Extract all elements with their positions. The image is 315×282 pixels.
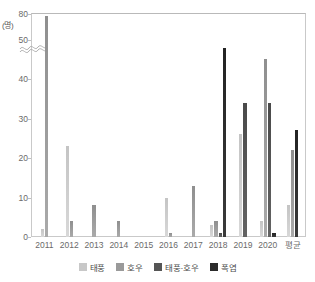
x-axis-tick-2015: 2015 [131,240,156,250]
legend-item-3[interactable]: 폭염 [210,261,237,273]
bar-평균-series-0 [287,205,290,237]
bar-group-2013 [82,14,107,237]
y-axis-tickmark [28,40,31,41]
x-axis-tick-2018: 2018 [206,240,231,250]
bar-group-2015 [131,14,156,237]
bar-2016-series-1 [169,233,172,237]
bar-2020-series-3 [272,233,275,237]
legend-item-1[interactable]: 호우 [116,261,143,273]
bar-chart: (명) 0102030405080 2011201220132014201520… [0,0,315,282]
bar-2018-series-1 [214,221,217,237]
x-axis-tick-2012: 2012 [57,240,82,250]
x-axis-tick-labels: 2011201220132014201520162017201820192020… [32,240,305,254]
y-axis-tick-40: 40 [2,75,28,83]
bar-2019-series-2 [243,103,246,237]
legend-label: 태풍·호우 [165,261,199,273]
legend-label: 호우 [127,261,143,273]
legend-item-0[interactable]: 태풍 [79,261,106,273]
x-axis-tick-평균: 평균 [280,240,305,250]
x-axis-tick-2019: 2019 [231,240,256,250]
bar-2014-series-1 [117,221,120,237]
legend-swatch-icon [210,263,218,271]
bar-평균-series-1 [291,150,294,237]
x-axis-tick-2014: 2014 [106,240,131,250]
chart-legend: 태풍호우태풍·호우폭염 [0,261,315,273]
y-axis-tickmark [28,14,31,15]
bar-group-2018 [206,14,231,237]
legend-item-2[interactable]: 태풍·호우 [154,261,199,273]
bar-group-2019 [231,14,256,237]
legend-label: 폭염 [221,261,237,273]
bar-2020-series-2 [268,103,271,237]
bar-group-2016 [156,14,181,237]
y-axis-tick-10: 10 [2,194,28,202]
x-axis-tick-2011: 2011 [32,240,57,250]
x-axis-tick-2016: 2016 [156,240,181,250]
y-axis-tick-30: 30 [2,115,28,123]
y-axis-tickmark [28,119,31,120]
y-axis-tick-20: 20 [2,154,28,162]
y-axis-tick-0: 0 [2,233,28,241]
bar-group-2020 [255,14,280,237]
bar-2011-series-1 [45,16,48,237]
legend-swatch-icon [154,263,162,271]
x-axis-tick-2020: 2020 [255,240,280,250]
bar-2018-series-2 [219,233,222,237]
bar-2011-series-0 [41,229,44,237]
y-axis-tickmark [28,237,31,238]
bar-2012-series-1 [70,221,73,237]
x-axis-tick-2017: 2017 [181,240,206,250]
bar-평균-series-3 [295,130,298,237]
bar-group-2017 [181,14,206,237]
bar-2013-series-1 [92,205,95,237]
y-axis-tick-80: 80 [2,10,28,18]
bar-group-2011 [32,14,57,237]
bars-layer [32,14,305,237]
y-axis-tickmark [28,158,31,159]
legend-swatch-icon [116,263,124,271]
x-axis-tick-2013: 2013 [82,240,107,250]
bar-2020-series-0 [260,221,263,237]
legend-swatch-icon [79,263,87,271]
bar-2012-series-0 [66,146,69,237]
bar-group-평균 [280,14,305,237]
bar-group-2012 [57,14,82,237]
bar-2019-series-0 [239,134,242,237]
legend-label: 태풍 [90,261,106,273]
y-axis-tickmark [28,79,31,80]
bar-2020-series-1 [264,59,267,237]
bar-group-2014 [106,14,131,237]
y-axis-tickmark [28,198,31,199]
bar-2017-series-1 [192,186,195,237]
bar-2016-series-0 [165,198,168,237]
bar-2018-series-0 [210,225,213,237]
bar-2018-series-3 [223,48,226,237]
